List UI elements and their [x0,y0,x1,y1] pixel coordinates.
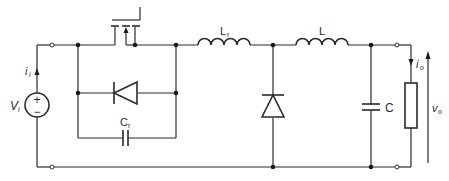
mosfet-body-arrow-icon [124,27,129,33]
wires [37,27,411,167]
output-voltage: v o [426,51,443,163]
junction-dot [369,43,374,48]
resonant-inductor: L r [198,25,250,45]
lr-label: L [220,25,226,37]
load-resistor: i o [405,58,424,128]
voltage-source: + − V i [10,93,49,119]
input-current-sub: i [29,71,31,78]
junction-dot [174,43,179,48]
junction-dot [133,43,138,48]
freewheel-diode [262,95,284,117]
lr-label-sub: r [227,31,230,38]
junctions [76,43,374,170]
junction-dot [369,165,374,170]
junction-dot [271,165,276,170]
terminal-input-top [50,43,54,47]
current-arrow-down-icon [409,59,414,66]
junction-dot [174,91,179,96]
output-current-sub: o [420,64,424,71]
lr-coil-icon [198,39,250,46]
c-label: C [385,101,394,115]
antiparallel-diode [114,82,137,104]
circuit-diagram: + − V i i i C r L r L [0,0,449,181]
cr-label: C [120,116,128,128]
input-current-label: i [25,65,28,77]
output-voltage-sub: o [438,108,442,115]
source-label-sub: i [18,106,20,113]
fwd-triangle-icon [262,95,284,117]
resonant-capacitor: C r [120,116,131,146]
source-minus: − [33,105,40,119]
l-coil-icon [296,39,348,46]
junction-dot [76,43,81,48]
junction-dot [271,43,276,48]
terminals [50,43,399,169]
terminal-output-bottom [395,165,399,169]
current-arrow-up-icon [35,68,40,75]
terminal-output-top [395,43,399,47]
resistor-box-icon [405,83,417,128]
l-label: L [319,25,325,37]
terminal-input-bottom [50,165,54,169]
diode-triangle-icon [114,82,137,104]
filter-capacitor: C [362,101,394,115]
junction-dot [76,91,81,96]
output-current-label: i [416,58,419,70]
voltage-arrow-up-icon [426,51,431,59]
filter-inductor: L [296,25,348,45]
cr-label-sub: r [128,122,131,129]
